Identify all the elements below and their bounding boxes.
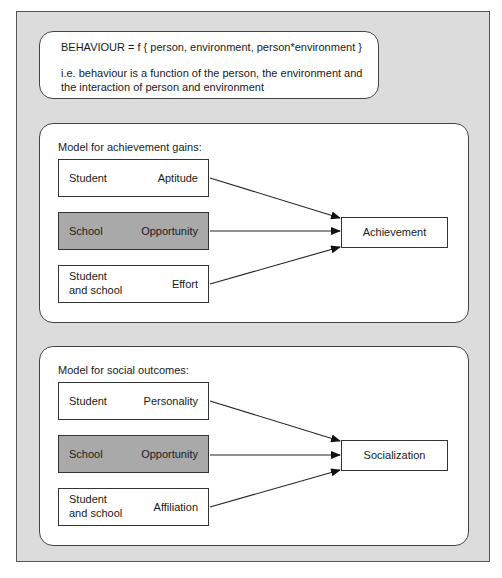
arrow-aptitude-to-achievement	[210, 178, 340, 218]
arrow-personality-to-socialization	[210, 401, 340, 441]
arrow-effort-to-achievement	[210, 247, 340, 284]
arrow-affiliation-to-socialization	[210, 470, 340, 507]
arrows-layer	[0, 0, 502, 578]
